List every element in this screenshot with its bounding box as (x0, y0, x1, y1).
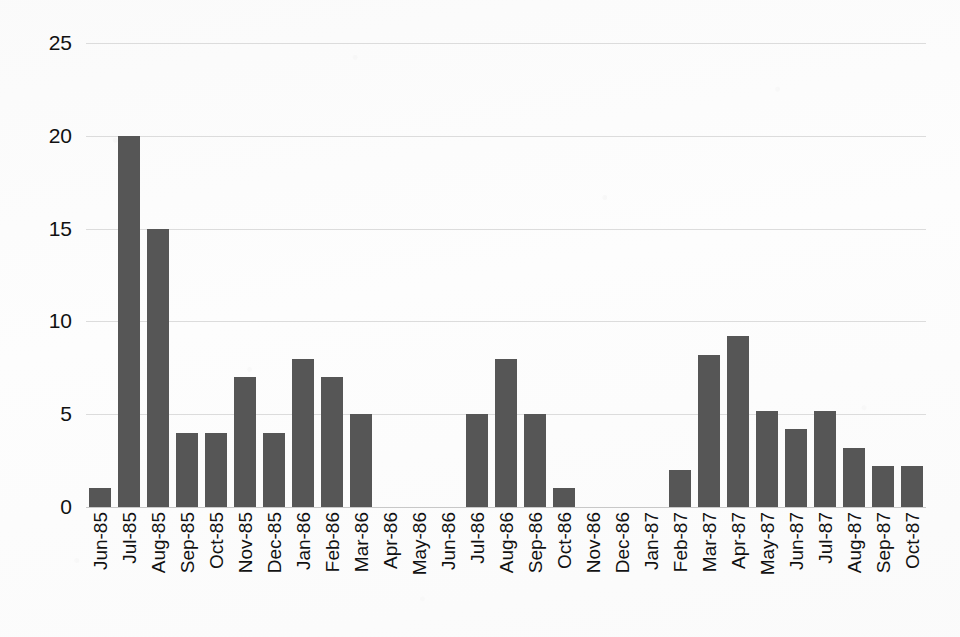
x-tick-label: Mar-86 (352, 512, 371, 572)
x-tick: Jun-85 (86, 512, 114, 632)
x-tick-label: Jun-85 (91, 512, 110, 570)
bar[interactable] (234, 377, 256, 507)
y-tick-label: 0 (12, 496, 72, 517)
bar[interactable] (814, 411, 836, 508)
x-tick: Sep-85 (173, 512, 201, 632)
bar[interactable] (292, 359, 314, 507)
x-tick: Oct-86 (550, 512, 578, 632)
bar[interactable] (901, 466, 923, 507)
bar[interactable] (118, 136, 140, 507)
x-tick: Dec-86 (608, 512, 636, 632)
x-tick: Mar-86 (347, 512, 375, 632)
x-tick-label: Sep-87 (873, 512, 892, 573)
x-tick: Jan-87 (637, 512, 665, 632)
y-tick-label: 5 (12, 403, 72, 424)
x-tick-label: Aug-87 (844, 512, 863, 573)
y-tick-label: 10 (12, 310, 72, 331)
x-tick: Aug-85 (144, 512, 172, 632)
y-tick-label: 15 (12, 218, 72, 239)
x-tick: Apr-86 (376, 512, 404, 632)
x-tick: Oct-87 (898, 512, 926, 632)
x-tick-label: Oct-87 (902, 512, 921, 569)
x-tick-label: Jun-87 (786, 512, 805, 570)
x-tick: Jun-87 (782, 512, 810, 632)
x-tick: Jul-85 (115, 512, 143, 632)
x-tick-label: Jul-85 (120, 512, 139, 564)
x-tick-label: Sep-86 (525, 512, 544, 573)
x-tick-label: Aug-85 (149, 512, 168, 573)
x-tick: Jul-86 (463, 512, 491, 632)
x-tick-label: Apr-86 (381, 512, 400, 569)
bars-series (86, 43, 926, 507)
bar[interactable] (321, 377, 343, 507)
x-tick: Mar-87 (695, 512, 723, 632)
y-tick-label: 25 (12, 32, 72, 53)
x-tick: Jul-87 (811, 512, 839, 632)
x-tick-label: Jul-87 (815, 512, 834, 564)
x-tick-label: Apr-87 (728, 512, 747, 569)
x-tick-label: Jun-86 (439, 512, 458, 570)
bar[interactable] (872, 466, 894, 507)
gridline-0 (86, 507, 926, 508)
bar[interactable] (524, 414, 546, 507)
y-tick-label: 20 (12, 125, 72, 146)
x-tick: Oct-85 (202, 512, 230, 632)
x-tick: Jun-86 (434, 512, 462, 632)
x-axis-tick-labels: Jun-85Jul-85Aug-85Sep-85Oct-85Nov-85Dec-… (86, 512, 926, 637)
x-tick: Jan-86 (289, 512, 317, 632)
x-tick: Feb-87 (666, 512, 694, 632)
x-tick: Feb-86 (318, 512, 346, 632)
x-tick-label: Dec-85 (265, 512, 284, 573)
x-tick-label: Nov-86 (583, 512, 602, 573)
x-tick-label: Jan-87 (641, 512, 660, 570)
bar[interactable] (89, 488, 111, 507)
bar[interactable] (205, 433, 227, 507)
bar[interactable] (727, 336, 749, 507)
bar[interactable] (698, 355, 720, 507)
bar[interactable] (263, 433, 285, 507)
bar[interactable] (350, 414, 372, 507)
bar[interactable] (466, 414, 488, 507)
x-tick-label: May-87 (757, 512, 776, 575)
x-tick: May-87 (753, 512, 781, 632)
bar[interactable] (176, 433, 198, 507)
x-tick: Aug-87 (840, 512, 868, 632)
x-tick-label: Jan-86 (294, 512, 313, 570)
x-tick-label: Dec-86 (612, 512, 631, 573)
x-tick: Aug-86 (492, 512, 520, 632)
x-tick-label: Nov-85 (236, 512, 255, 573)
x-tick-label: Oct-85 (207, 512, 226, 569)
bar[interactable] (495, 359, 517, 507)
x-tick-label: Sep-85 (178, 512, 197, 573)
x-tick: Nov-85 (231, 512, 259, 632)
bar-chart: 0510152025 Jun-85Jul-85Aug-85Sep-85Oct-8… (0, 0, 960, 637)
x-tick: Apr-87 (724, 512, 752, 632)
x-tick: Dec-85 (260, 512, 288, 632)
x-tick-label: Mar-87 (699, 512, 718, 572)
x-tick-label: May-86 (410, 512, 429, 575)
bar[interactable] (553, 488, 575, 507)
bar[interactable] (147, 229, 169, 507)
x-tick: May-86 (405, 512, 433, 632)
plot-area (86, 43, 926, 507)
x-tick: Sep-87 (869, 512, 897, 632)
bar[interactable] (785, 429, 807, 507)
x-tick-label: Oct-86 (554, 512, 573, 569)
x-tick-label: Aug-86 (497, 512, 516, 573)
bar[interactable] (756, 411, 778, 508)
x-tick-label: Jul-86 (468, 512, 487, 564)
x-tick-label: Feb-87 (670, 512, 689, 572)
x-tick-label: Feb-86 (323, 512, 342, 572)
bar[interactable] (669, 470, 691, 507)
x-tick: Sep-86 (521, 512, 549, 632)
x-tick: Nov-86 (579, 512, 607, 632)
bar[interactable] (843, 448, 865, 507)
